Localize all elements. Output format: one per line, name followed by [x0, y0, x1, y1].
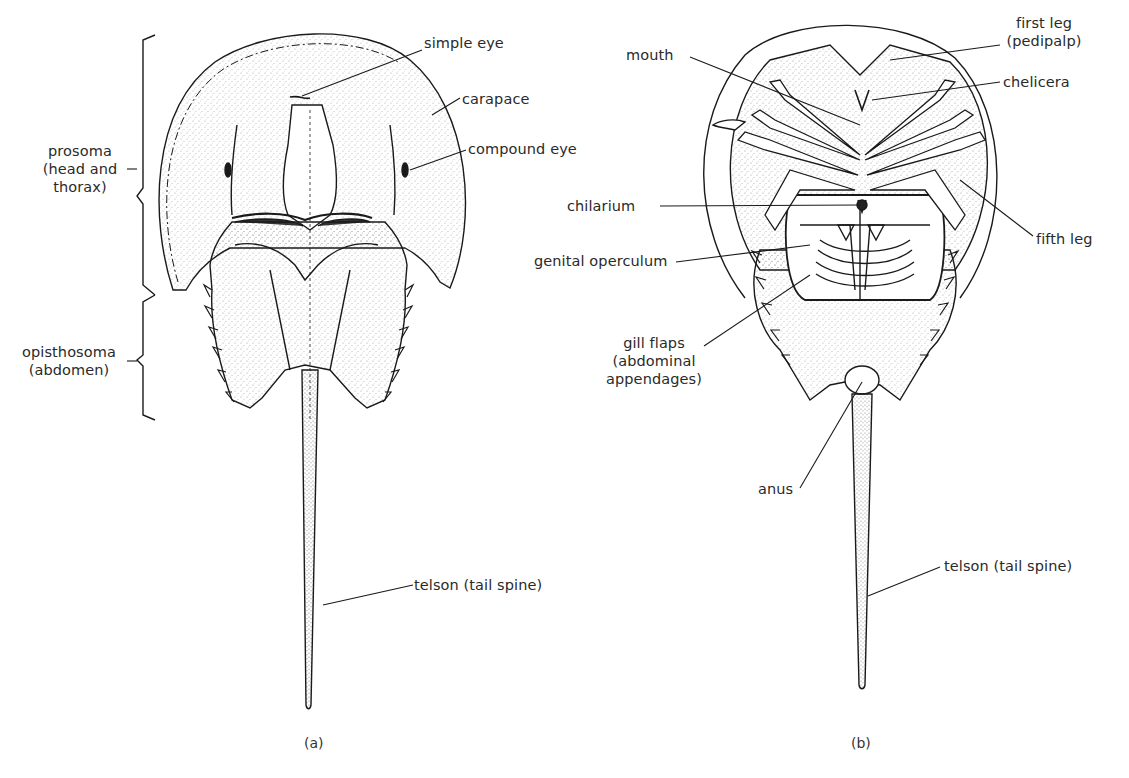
label-prosoma-line3: thorax): [30, 178, 130, 196]
telson-dorsal: [302, 370, 318, 709]
label-first-leg-line1: first leg: [1000, 14, 1088, 32]
label-fifth-leg: fifth leg: [1036, 230, 1093, 248]
caption-b: (b): [851, 735, 871, 751]
compound-eye-right: [402, 163, 408, 177]
label-first-leg: first leg (pedipalp): [1000, 14, 1088, 50]
label-prosoma: prosoma (head and thorax): [30, 142, 130, 196]
caption-a: (a): [304, 735, 324, 751]
label-gill-flaps-line3: appendages): [600, 370, 708, 388]
label-chelicera: chelicera: [1003, 73, 1070, 91]
label-opisthosoma-line2: (abdomen): [10, 361, 128, 379]
prosoma-bracket: [137, 35, 155, 295]
illustration: [0, 0, 1129, 778]
label-gill-flaps: gill flaps (abdominal appendages): [600, 334, 708, 388]
compound-eye-left: [225, 163, 231, 177]
label-anus: anus: [758, 480, 793, 498]
opisthosoma-bracket: [137, 295, 155, 420]
label-prosoma-line2: (head and: [30, 160, 130, 178]
ventral-view-drawing: [660, 25, 1033, 688]
dorsal-view-drawing: [127, 34, 466, 709]
label-gill-flaps-line2: (abdominal: [600, 352, 708, 370]
label-telson-b: telson (tail spine): [944, 557, 1072, 575]
label-simple-eye: simple eye: [424, 34, 504, 52]
label-gill-flaps-line1: gill flaps: [600, 334, 708, 352]
label-compound-eye: compound eye: [468, 140, 577, 158]
label-first-leg-line2: (pedipalp): [1000, 32, 1088, 50]
label-mouth: mouth: [626, 46, 674, 64]
label-chilarium: chilarium: [567, 197, 635, 215]
label-opisthosoma: opisthosoma (abdomen): [10, 343, 128, 379]
label-carapace: carapace: [462, 90, 530, 108]
horseshoe-crab-figure: simple eye carapace compound eye telson …: [0, 0, 1129, 778]
label-prosoma-line1: prosoma: [30, 142, 130, 160]
label-telson-a: telson (tail spine): [414, 576, 542, 594]
label-genital-operculum: genital operculum: [534, 252, 667, 270]
anus-knob: [845, 366, 879, 394]
telson-ventral: [852, 394, 872, 689]
label-opisthosoma-line1: opisthosoma: [10, 343, 128, 361]
